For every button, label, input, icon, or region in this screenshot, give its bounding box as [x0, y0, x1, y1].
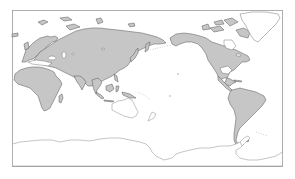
north-america — [170, 33, 250, 86]
victoria-island — [210, 26, 224, 32]
banks-island — [202, 24, 210, 30]
caspian-sea — [62, 52, 66, 58]
sumatra — [96, 92, 104, 99]
new-siberian-islands — [128, 23, 135, 27]
africa — [14, 67, 62, 111]
ellesmere-island — [224, 18, 238, 26]
new-zealand — [148, 112, 156, 121]
pacific-island — [178, 74, 179, 75]
pacific-island — [170, 96, 171, 97]
java — [104, 100, 114, 102]
iceland — [12, 33, 18, 37]
pacific-islands — [138, 92, 150, 100]
borneo — [106, 84, 114, 92]
philippines — [114, 74, 118, 82]
australia — [112, 98, 138, 118]
south-sandwich-islands — [256, 132, 268, 136]
aral-sea — [72, 53, 74, 55]
world-map — [0, 0, 295, 179]
new-guinea — [122, 92, 136, 98]
novaya-zemlya — [66, 24, 80, 30]
southeast-asia — [92, 78, 102, 94]
black-sea — [48, 56, 56, 60]
madagascar — [59, 94, 63, 103]
severnaya-zemlya — [96, 18, 103, 24]
svalbard — [38, 20, 48, 25]
aleutian-islands — [150, 45, 172, 50]
sulawesi — [116, 86, 119, 92]
great-lakes — [236, 54, 241, 56]
franz-josef-land — [60, 17, 72, 21]
arctic-islands — [214, 20, 224, 25]
lake-baikal — [101, 48, 105, 50]
